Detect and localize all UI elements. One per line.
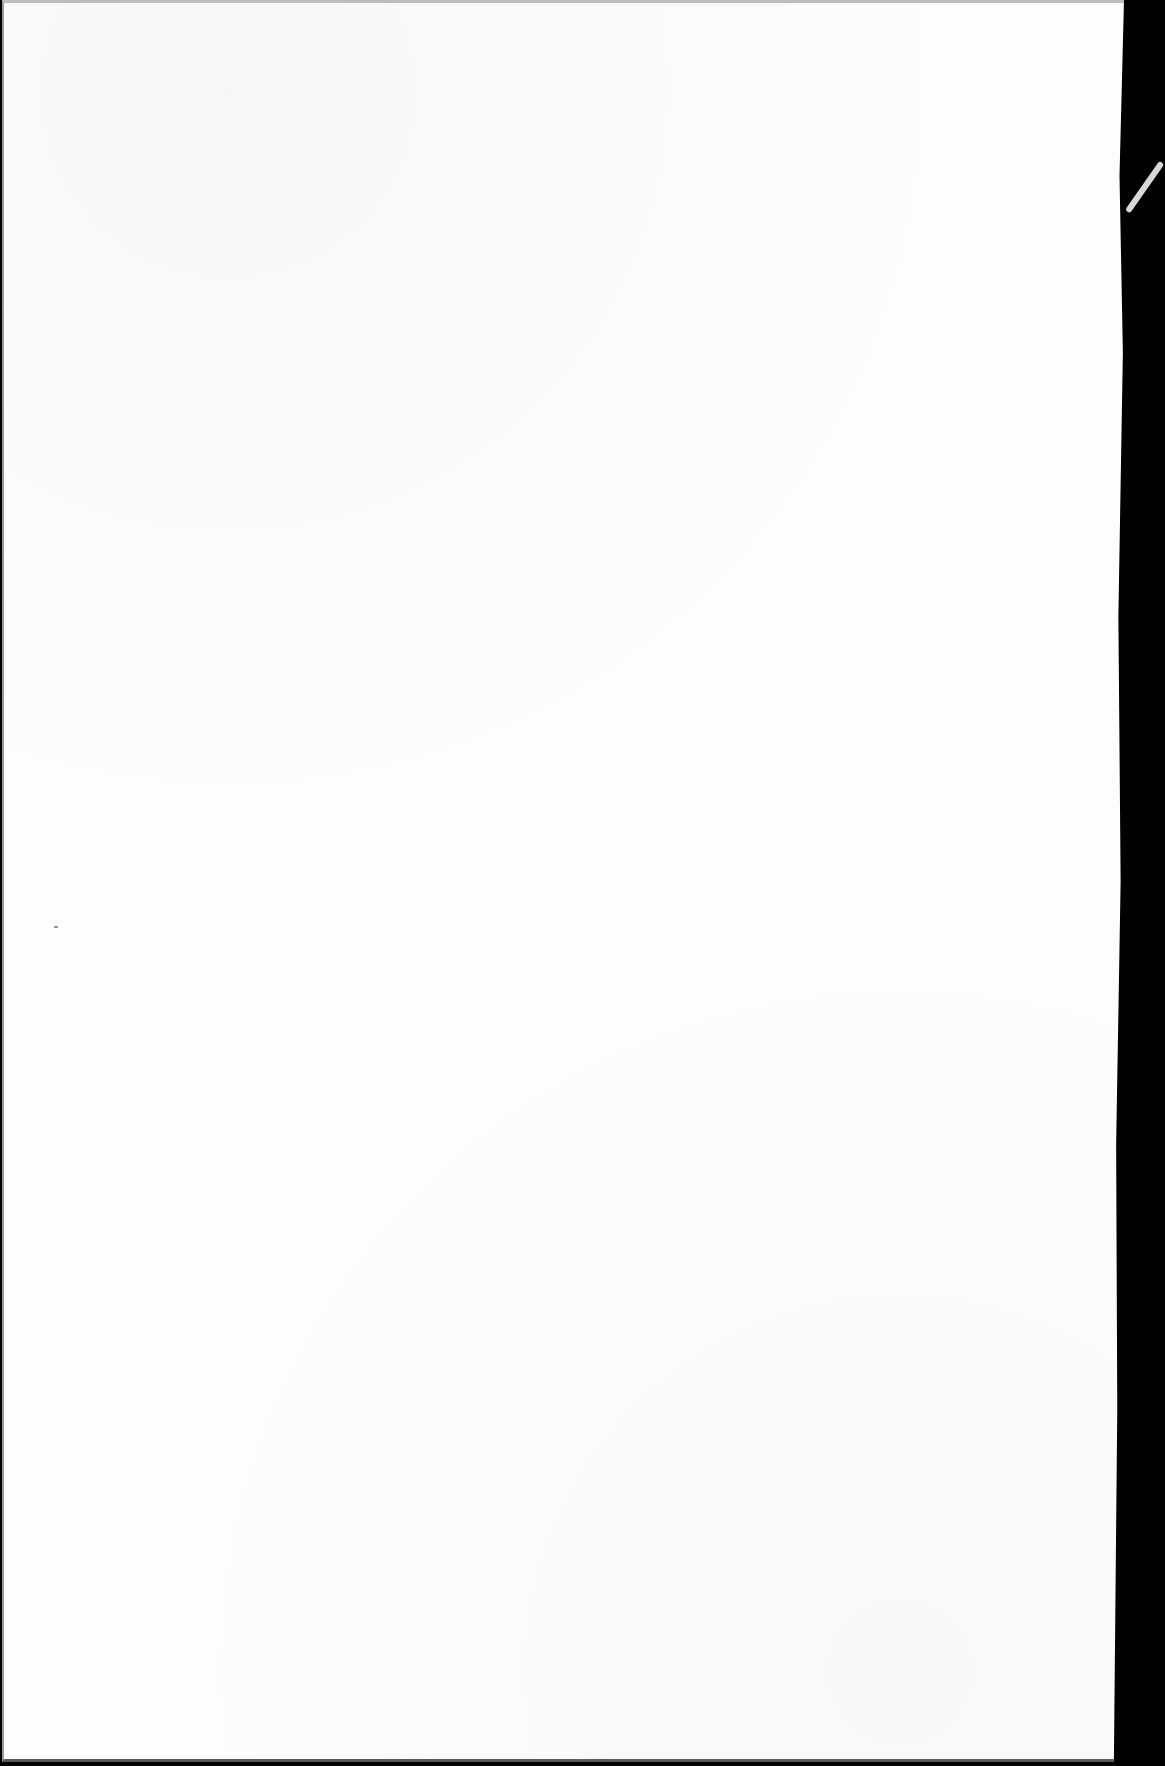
- dust-speck: [54, 926, 58, 928]
- scan-background: [0, 0, 1165, 1766]
- blank-page: [2, 0, 1124, 1762]
- paper-fiber: [1125, 161, 1164, 214]
